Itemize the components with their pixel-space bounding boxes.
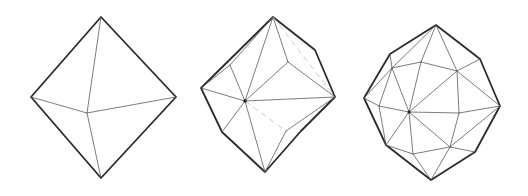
- geodesic-edge: [379, 68, 392, 106]
- octahedron-edge: [31, 97, 87, 113]
- geodesic-edge: [392, 62, 421, 68]
- geodesic-edge: [413, 147, 450, 154]
- geodesic-edge: [459, 106, 500, 113]
- geodesic-edge: [421, 62, 457, 71]
- geodesic-edge: [379, 106, 409, 112]
- geodesic-edge: [386, 145, 413, 154]
- geodesic-edge: [457, 59, 480, 71]
- geodesic-edge: [457, 71, 459, 113]
- geodesic-edge: [364, 68, 392, 98]
- subdivided-edge: [286, 97, 335, 131]
- octahedron: [31, 17, 176, 178]
- subdivided-outline: [201, 17, 335, 172]
- geodesic-edge: [450, 147, 475, 152]
- apex-vertex: [407, 110, 410, 113]
- geodesic-edge: [409, 62, 421, 112]
- geodesic-edge: [450, 106, 500, 147]
- geodesic-polyhedron: [364, 25, 500, 180]
- subdivided-edge: [222, 101, 245, 132]
- geodesic-outline: [364, 25, 500, 180]
- subdivided-edge: [201, 88, 245, 101]
- geodesic-edge: [409, 71, 457, 112]
- geodesic-edge: [409, 112, 413, 154]
- geodesic-edge: [431, 147, 450, 180]
- subdivided-edge: [230, 65, 245, 101]
- geodesic-edge: [409, 112, 459, 113]
- octahedron-edge: [87, 113, 101, 178]
- geodesic-edge: [436, 25, 457, 71]
- geodesic-edge: [392, 68, 409, 112]
- hidden-edge: [245, 101, 286, 131]
- geodesic-edge: [409, 112, 450, 147]
- hidden-edge: [273, 17, 335, 97]
- subdivided-octahedron: [201, 17, 335, 172]
- subdivided-edge: [230, 17, 273, 65]
- octahedron-outline: [31, 17, 176, 178]
- geodesic-edge: [392, 25, 436, 68]
- apex-vertex: [243, 99, 247, 103]
- subdivided-edge: [245, 101, 265, 172]
- geodesic-edge: [390, 54, 392, 68]
- geodesic-edge: [450, 113, 459, 147]
- subdivided-edge: [201, 65, 230, 88]
- polyhedra-figure: [0, 0, 528, 196]
- geodesic-edge: [386, 112, 409, 145]
- subdivided-edge: [245, 97, 335, 101]
- geodesic-edge: [457, 71, 500, 106]
